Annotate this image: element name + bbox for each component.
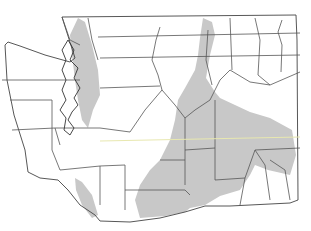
range-areas	[70, 18, 296, 218]
county-boundary	[10, 100, 52, 150]
county-boundary	[230, 18, 232, 70]
range-area	[75, 178, 98, 218]
range-area	[70, 18, 100, 128]
county-boundary	[130, 27, 162, 132]
county-boundary	[98, 33, 300, 37]
county-boundary	[278, 20, 282, 72]
county-boundary	[100, 86, 160, 88]
washington-county-map	[0, 0, 311, 231]
range-area	[135, 18, 296, 218]
county-boundary	[255, 18, 270, 85]
county-boundary	[60, 165, 125, 170]
county-boundary	[52, 150, 60, 170]
